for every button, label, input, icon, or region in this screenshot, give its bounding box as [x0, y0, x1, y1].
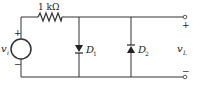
resistor: 1 kΩ: [38, 2, 62, 21]
diode-d2-label-sub: 2: [145, 50, 149, 57]
resistor-label: 1 kΩ: [38, 2, 60, 12]
output-label-sub: L: [182, 49, 187, 56]
source-circle-icon: [11, 39, 31, 59]
circuit-diagram: 1 kΩ + − v i D 1 D 2 + − v L: [0, 0, 222, 86]
diode-d1-label-sub: 1: [93, 50, 97, 57]
wires: [21, 17, 183, 77]
diode-d1: D 1: [75, 44, 97, 57]
diode-d2: D 2: [127, 44, 149, 57]
source-label-sub: i: [7, 49, 9, 56]
output-minus: −: [182, 66, 190, 76]
wire-left-top: [21, 17, 38, 39]
diode-d1-arrow-icon: [75, 45, 83, 52]
diode-d2-arrow-icon: [127, 46, 135, 53]
output-terminals: + − v L: [177, 15, 190, 79]
source-plus: +: [14, 28, 22, 38]
voltage-source: + − v i: [1, 28, 31, 69]
wire-bottom: [21, 59, 183, 77]
terminal-top-icon: [183, 15, 187, 19]
output-plus: +: [182, 20, 190, 30]
source-minus: −: [14, 59, 22, 69]
